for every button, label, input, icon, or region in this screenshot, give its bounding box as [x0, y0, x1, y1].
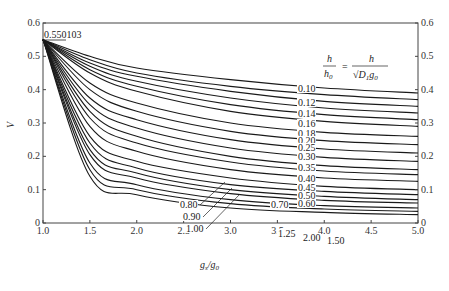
curve-label: 1.25 — [278, 228, 296, 239]
svg-text:0.5: 0.5 — [28, 50, 41, 61]
curve-label: 0.12 — [298, 97, 316, 108]
svg-text:0.3: 0.3 — [28, 117, 41, 128]
svg-text:0.1: 0.1 — [421, 184, 434, 195]
y-axis-label: V — [5, 120, 16, 128]
curve-label: 2.00 — [303, 232, 321, 243]
line-chart: 1.01.52.02.53.03.54.04.55.000.10.20.30.4… — [0, 0, 449, 291]
curve-label: 0.60 — [298, 198, 316, 209]
origin-annotation: 0.550103 — [44, 29, 82, 40]
svg-text:h: h — [327, 53, 332, 64]
curve-0.20 — [43, 40, 418, 127]
svg-text:0.4: 0.4 — [28, 84, 41, 95]
curve-label: 0.70 — [271, 199, 289, 210]
svg-text:3.0: 3.0 — [224, 225, 237, 236]
svg-text:1.5: 1.5 — [84, 225, 97, 236]
svg-text:0.6: 0.6 — [28, 17, 41, 28]
svg-text:√D1g0: √D1g0 — [353, 69, 378, 82]
curve-label: 1.50 — [327, 235, 345, 246]
svg-text:0.5: 0.5 — [421, 50, 434, 61]
curve-label: 0.35 — [298, 162, 316, 173]
curve-1.50 — [43, 40, 418, 212]
svg-text:0: 0 — [421, 217, 426, 228]
curve-label: 0.80 — [180, 199, 198, 210]
svg-text:0: 0 — [35, 217, 40, 228]
curve-label: 1.00 — [186, 223, 204, 234]
svg-text:0.3: 0.3 — [421, 117, 434, 128]
curve-label: 0.30 — [298, 151, 316, 162]
svg-text:0.2: 0.2 — [28, 150, 41, 161]
svg-text:0.2: 0.2 — [421, 150, 434, 161]
curve-label: 0.10 — [298, 83, 316, 94]
x-axis-label: gs/g0 — [200, 259, 220, 272]
svg-text:=: = — [342, 61, 348, 72]
svg-text:0.6: 0.6 — [421, 17, 434, 28]
svg-text:h0: h0 — [324, 68, 333, 81]
curve-0.30 — [43, 40, 418, 145]
legend-formula: h h0 = h √D1g0 — [323, 53, 388, 82]
svg-text:2.0: 2.0 — [131, 225, 144, 236]
curve-0.25 — [43, 40, 418, 137]
svg-text:0.1: 0.1 — [28, 184, 41, 195]
svg-text:h: h — [369, 53, 374, 64]
svg-text:0.4: 0.4 — [421, 84, 434, 95]
curve-label: 0.90 — [183, 211, 201, 222]
svg-text:4.5: 4.5 — [365, 225, 378, 236]
svg-text:gs/g0: gs/g0 — [200, 259, 220, 272]
